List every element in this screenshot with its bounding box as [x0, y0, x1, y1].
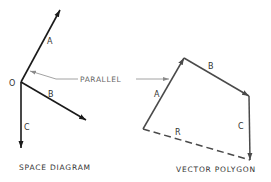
- space-diagram: O A B C SPACE DIAGRAM: [9, 10, 91, 172]
- vector-polygon-caption: VECTOR POLYGON: [176, 165, 256, 174]
- vector-diagram-canvas: O A B C SPACE DIAGRAM PARALLEL A B C R V…: [0, 0, 271, 182]
- space-vector-a: [21, 10, 60, 82]
- space-label-a: A: [47, 37, 53, 46]
- polygon-resultant-r: [143, 129, 250, 160]
- vector-polygon: A B C R VECTOR POLYGON: [143, 58, 256, 174]
- space-diagram-caption: SPACE DIAGRAM: [19, 163, 91, 172]
- polygon-label-c: C: [238, 122, 244, 131]
- origin-label: O: [9, 79, 15, 88]
- parallel-annotation: PARALLEL: [30, 71, 169, 84]
- polygon-label-a: A: [154, 90, 160, 99]
- polygon-vector-a: [143, 58, 184, 129]
- leader-line-left: [30, 71, 56, 79]
- polygon-vector-c: [249, 96, 250, 160]
- space-label-c: C: [24, 123, 30, 132]
- polygon-vector-b: [184, 58, 249, 96]
- parallel-label: PARALLEL: [80, 75, 122, 84]
- space-vector-b: [21, 82, 86, 120]
- polygon-label-b: B: [208, 62, 214, 71]
- polygon-label-r: R: [175, 128, 181, 137]
- space-label-b: B: [48, 90, 54, 99]
